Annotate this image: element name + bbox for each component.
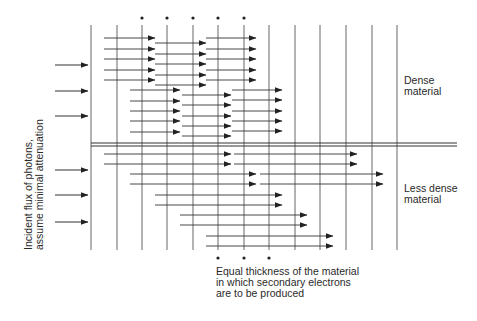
- thickness-caption: Equal thickness of the material in which…: [216, 266, 359, 299]
- incident-flux-label-line2: assume minimal attenuation: [34, 80, 45, 250]
- incident-flux-label: Incident flux of photons, assume minimal…: [23, 80, 45, 250]
- asterisk-marker-icon: [216, 16, 219, 19]
- asterisk-marker-icon: [140, 16, 143, 19]
- asterisk-marker-icon: [267, 256, 270, 259]
- asterisk-marker-icon: [165, 16, 168, 19]
- asterisk-marker-icon: [242, 256, 245, 259]
- layer-markers: [140, 16, 270, 259]
- material-boundary-double-line: [91, 143, 457, 146]
- incident-photon-arrows: [55, 65, 88, 222]
- less-dense-material-label: Less dense material: [404, 183, 458, 205]
- less-dense-material-electron-arrows: [104, 154, 383, 246]
- dense-material-label: Dense material: [404, 75, 441, 97]
- asterisk-marker-icon: [191, 16, 194, 19]
- dense-material-label-line2: material: [404, 86, 441, 97]
- less-dense-material-label-line2: material: [404, 194, 458, 205]
- asterisk-marker-icon: [216, 256, 219, 259]
- thickness-caption-line3: are to be produced: [216, 288, 359, 299]
- asterisk-marker-icon: [242, 16, 245, 19]
